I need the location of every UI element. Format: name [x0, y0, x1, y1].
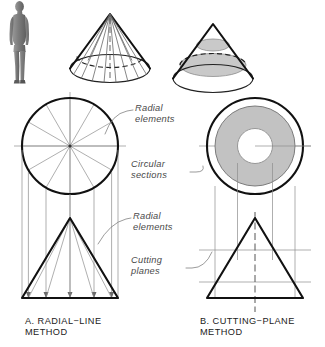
leader-circular-sections	[190, 166, 203, 172]
left-pictorial-cone	[70, 14, 150, 83]
callout-circular-sections: Circular sections	[131, 159, 167, 180]
left-front-view	[22, 218, 118, 298]
leader-radial-elements-front	[98, 218, 131, 244]
right-pictorial-cone	[173, 24, 253, 93]
technical-drawing-figure: Radial elements Circular sections Radial…	[0, 0, 325, 347]
front-view-radial-elements	[22, 218, 118, 298]
right-front-view	[199, 212, 311, 312]
callout-radial-elements-top: Radial elements	[135, 103, 175, 124]
right-cone-base-front-arc	[173, 79, 253, 93]
callout-cutting-planes: Cutting planes	[131, 255, 162, 276]
right-top-view	[199, 98, 311, 194]
top-view-center-point	[68, 144, 71, 147]
caption-left-method: A. RADIAL−LINE METHOD	[25, 316, 102, 339]
leader-cutting-planes	[186, 252, 212, 268]
caption-right-method: B. CUTTING−PLANE METHOD	[200, 316, 295, 339]
leader-radial-elements-top	[105, 110, 133, 134]
callout-radial-elements-front: Radial elements	[133, 211, 173, 232]
human-scale-figure	[0, 0, 38, 86]
